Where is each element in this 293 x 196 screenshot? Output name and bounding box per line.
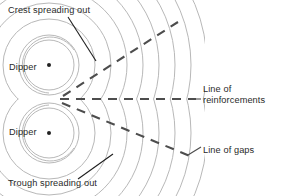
wavefront-arc — [0, 0, 175, 191]
wavefront-arc — [0, 55, 127, 196]
dipper-top-dot — [47, 63, 51, 67]
label-dipper-top: Dipper — [9, 62, 37, 73]
label-line-of-reinforcements-line1: Line of — [203, 84, 265, 95]
label-line-of-reinforcements: Line of reinforcements — [203, 84, 265, 106]
label-line-of-gaps: Line of gaps — [203, 145, 254, 156]
label-trough-spreading-out: Trough spreading out — [8, 178, 97, 189]
label-crest-spreading-out: Crest spreading out — [8, 5, 90, 16]
wavefront-arc — [0, 7, 175, 196]
dipper-bottom-dot — [47, 131, 51, 135]
crest-leader-line — [68, 17, 96, 61]
label-dipper-bottom: Dipper — [9, 127, 37, 138]
trough-leader-line — [78, 154, 113, 179]
diagram-canvas: Crest spreading out Dipper Dipper Trough… — [0, 0, 293, 196]
label-line-of-reinforcements-line2: reinforcements — [203, 95, 265, 106]
